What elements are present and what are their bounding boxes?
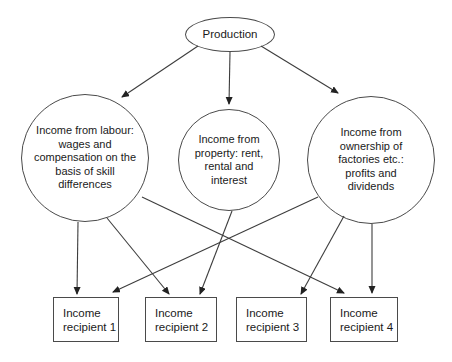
node-recipient-3-label: Income recipient 3: [237, 306, 299, 334]
arrow-production-to-property: [229, 52, 230, 104]
arrow-labour-to-recipient1: [77, 222, 78, 294]
arrow-labour-to-recipient4: [142, 197, 344, 293]
node-recipient-1: Income recipient 1: [53, 297, 119, 342]
arrow-property-to-recipient2: [200, 211, 232, 294]
node-income-property: Income from property: rent, rental and i…: [178, 109, 280, 211]
arrow-ownership-to-recipient3: [301, 216, 344, 294]
node-production: Production: [185, 17, 275, 52]
node-recipient-2: Income recipient 2: [145, 297, 217, 342]
node-income-ownership-label: Income from ownership of factories etc.:…: [321, 126, 421, 194]
node-recipient-2-label: Income recipient 2: [146, 306, 208, 334]
arrow-production-to-labour: [122, 46, 198, 97]
node-income-property-label: Income from property: rent, rental and i…: [184, 133, 274, 187]
node-income-ownership: Income from ownership of factories etc.:…: [307, 96, 435, 224]
node-income-labour-label: Income from labour: wages and compensati…: [29, 124, 141, 192]
node-income-labour: Income from labour: wages and compensati…: [21, 94, 149, 222]
arrow-labour-to-recipient2: [107, 218, 169, 294]
node-recipient-3: Income recipient 3: [236, 297, 307, 342]
node-recipient-1-label: Income recipient 1: [54, 306, 116, 334]
node-recipient-4-label: Income recipient 4: [331, 306, 393, 334]
income-distribution-diagram: Production Income from labour: wages and…: [0, 0, 452, 362]
arrow-production-to-ownership: [261, 46, 338, 93]
arrow-ownership-to-recipient1: [113, 197, 318, 292]
node-production-label: Production: [203, 28, 258, 42]
node-recipient-4: Income recipient 4: [330, 297, 398, 342]
